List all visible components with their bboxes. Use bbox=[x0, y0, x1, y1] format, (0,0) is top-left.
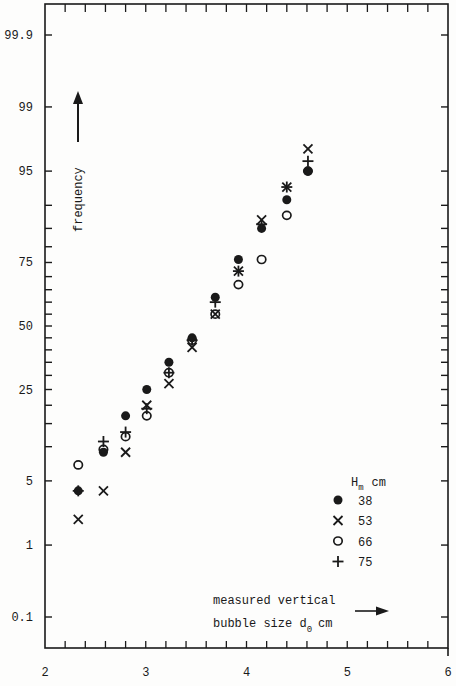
plot-frame bbox=[45, 4, 448, 656]
y-tick-label: 99.9 bbox=[4, 29, 33, 43]
data-point-open-circle bbox=[234, 281, 242, 289]
probability-plot: 23456 0.115255075959999.9 frequency meas… bbox=[0, 0, 456, 686]
data-point-filled-circle bbox=[142, 385, 151, 394]
plus-legend-icon bbox=[333, 556, 344, 567]
data-point-plus bbox=[73, 485, 84, 496]
x-tick-label: 5 bbox=[344, 666, 351, 680]
y-tick-label: 1 bbox=[26, 539, 33, 553]
y-axis-label: frequency bbox=[72, 167, 86, 232]
legend-title: Hmcm bbox=[351, 476, 386, 493]
y-tick-label: 75 bbox=[19, 256, 33, 270]
data-points bbox=[73, 144, 314, 524]
series-38 bbox=[74, 167, 313, 496]
legend: Hmcm 38536675 bbox=[333, 476, 387, 570]
y-tick-label: 50 bbox=[19, 320, 33, 334]
data-point-plus bbox=[98, 436, 109, 447]
x-axis-label-line1: measured vertical bbox=[213, 594, 335, 608]
data-point-x-cross bbox=[303, 144, 312, 153]
data-point-filled-circle bbox=[282, 195, 291, 204]
y-tick-label: 25 bbox=[19, 384, 33, 398]
data-point-filled-circle bbox=[234, 255, 243, 264]
right-arrow-icon bbox=[355, 607, 389, 616]
legend-item-label: 66 bbox=[358, 536, 372, 550]
x-tick-label: 2 bbox=[41, 666, 48, 680]
legend-item-label: 53 bbox=[358, 515, 372, 529]
data-point-x-cross bbox=[164, 379, 173, 388]
data-point-open-circle bbox=[283, 211, 291, 219]
y-tick-label: 5 bbox=[26, 475, 33, 489]
y-tick-label: 99 bbox=[19, 101, 33, 115]
up-arrow-icon bbox=[73, 91, 83, 142]
y-tick-labels: 0.115255075959999.9 bbox=[4, 29, 33, 625]
legend-item-label: 38 bbox=[358, 495, 372, 509]
x-tick-label: 6 bbox=[444, 666, 451, 680]
series-66 bbox=[74, 167, 312, 469]
series-75 bbox=[73, 156, 314, 497]
axis-ticks bbox=[45, 4, 448, 648]
filled-circle-legend-icon bbox=[334, 496, 343, 505]
plot-border bbox=[45, 4, 448, 648]
data-point-plus bbox=[141, 403, 152, 414]
y-tick-label: 0.1 bbox=[11, 611, 33, 625]
open-circle-legend-icon bbox=[334, 537, 342, 545]
data-point-open-circle bbox=[257, 255, 265, 263]
data-point-x-cross bbox=[121, 448, 130, 457]
x-tick-label: 4 bbox=[243, 666, 250, 680]
data-point-plus bbox=[163, 367, 174, 378]
data-point-plus bbox=[302, 156, 313, 167]
x-tick-label: 3 bbox=[142, 666, 149, 680]
y-tick-label: 95 bbox=[19, 165, 33, 179]
y-axis-label-group: frequency bbox=[72, 91, 86, 232]
data-point-x-cross bbox=[74, 515, 83, 524]
x-axis-label-line2: bubble size d0cm bbox=[213, 617, 332, 635]
data-point-x-cross bbox=[99, 486, 108, 495]
data-point-filled-circle bbox=[164, 358, 173, 367]
data-point-open-circle bbox=[74, 461, 82, 469]
x-cross-legend-icon bbox=[334, 516, 343, 525]
data-point-filled-circle bbox=[121, 411, 130, 420]
x-tick-labels: 23456 bbox=[41, 666, 451, 680]
x-axis-label-group: measured vertical bubble size d0cm bbox=[213, 594, 389, 635]
legend-item-label: 75 bbox=[358, 556, 372, 570]
